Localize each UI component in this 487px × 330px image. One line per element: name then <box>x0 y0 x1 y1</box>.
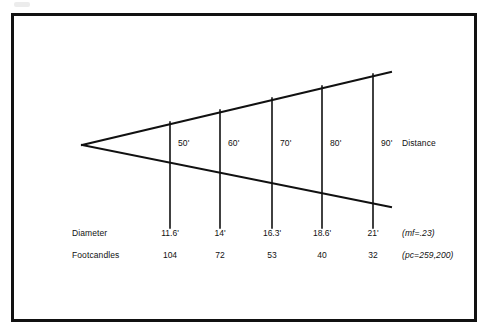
diagram-vector-layer <box>0 0 487 330</box>
cone-upper-line <box>82 72 391 145</box>
note-pc: (pc=259,200) <box>402 250 454 260</box>
diameter-value-1: 11.6' <box>161 228 179 238</box>
footcandles-value-5: 32 <box>368 250 377 260</box>
distance-label-2: 60' <box>228 138 239 148</box>
footcandles-value-1: 104 <box>163 250 177 260</box>
diameter-value-5: 21' <box>367 228 378 238</box>
footcandles-value-4: 40 <box>317 250 326 260</box>
diameter-value-4: 18.6' <box>313 228 331 238</box>
station-lines <box>170 74 373 228</box>
distance-label-4: 80' <box>330 138 341 148</box>
diameter-value-2: 14' <box>214 228 225 238</box>
distance-label-3: 70' <box>280 138 291 148</box>
footcandles-value-3: 53 <box>267 250 276 260</box>
beam-spread-diagram: Distance Diameter Footcandles (mf=.23) (… <box>0 0 487 330</box>
footcandles-value-2: 72 <box>215 250 224 260</box>
distance-label-5: 90' <box>381 138 392 148</box>
distance-label-1: 50' <box>178 138 189 148</box>
row-label-footcandles: Footcandles <box>72 250 119 260</box>
cone-lower-line <box>82 145 391 207</box>
note-mf: (mf=.23) <box>402 228 435 238</box>
axis-label-distance: Distance <box>402 138 436 148</box>
diameter-value-3: 16.3' <box>263 228 281 238</box>
row-label-diameter: Diameter <box>72 228 107 238</box>
